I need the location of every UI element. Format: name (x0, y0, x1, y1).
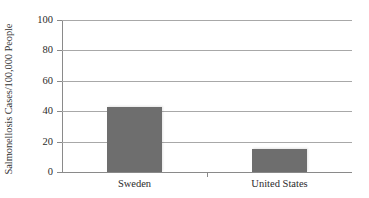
gridline (62, 50, 352, 51)
gridline (62, 142, 352, 143)
y-tick-label: 100 (13, 15, 53, 25)
gridline (62, 81, 352, 82)
y-tick-label: 20 (13, 137, 53, 147)
y-tick-label: 60 (13, 76, 53, 86)
gridline (62, 20, 352, 21)
x-tick-label: United States (210, 178, 350, 190)
bar-sweden[interactable] (107, 107, 162, 172)
y-tick-label: 40 (13, 106, 53, 116)
bar-united-states[interactable] (252, 149, 307, 172)
x-tick-label: Sweden (65, 178, 205, 190)
y-tick-label: 80 (13, 45, 53, 55)
bar-chart: Salmonellosis Cases/100,000 People 02040… (0, 0, 369, 198)
plot-area (62, 20, 352, 172)
y-tick-label: 0 (13, 167, 53, 177)
x-tick-mark (207, 172, 208, 177)
gridline (62, 111, 352, 112)
